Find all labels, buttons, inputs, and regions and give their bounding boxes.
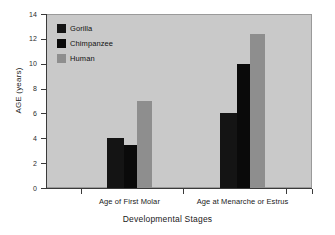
y-axis-tick xyxy=(41,64,46,65)
x-axis-tick xyxy=(286,189,287,194)
y-axis-tick-label: 2 xyxy=(33,160,37,167)
y-axis-line xyxy=(46,14,47,188)
bar-chart: 02468101214 Age of First MolarAge at Men… xyxy=(0,0,335,235)
legend-swatch-chimpanzee xyxy=(57,39,66,48)
y-axis-tick xyxy=(41,113,46,114)
legend-label: Human xyxy=(70,54,95,63)
bar-gorilla-1 xyxy=(220,113,237,188)
legend-item-gorilla[interactable]: Gorilla xyxy=(57,21,113,35)
bar-chimpanzee-0 xyxy=(124,145,137,188)
y-axis-tick xyxy=(41,89,46,90)
x-axis-tick-label: Age at Menarche or Estrus xyxy=(163,197,323,206)
x-axis-tick xyxy=(183,189,184,194)
y-axis-tick xyxy=(41,39,46,40)
y-axis-tick-label: 8 xyxy=(33,85,37,92)
y-axis-title: AGE (years) xyxy=(14,46,23,136)
bar-human-1 xyxy=(250,34,265,188)
x-axis-title: Developmental Stages xyxy=(0,214,335,224)
legend-label: Gorilla xyxy=(70,24,92,33)
legend-item-chimpanzee[interactable]: Chimpanzee xyxy=(57,36,113,50)
y-axis-tick xyxy=(41,188,46,189)
y-axis-tick xyxy=(41,138,46,139)
bar-gorilla-0 xyxy=(107,138,124,188)
x-axis-tick xyxy=(81,189,82,194)
legend-swatch-gorilla xyxy=(57,24,66,33)
bar-chimpanzee-1 xyxy=(237,64,250,188)
y-axis-tick-label: 12 xyxy=(29,35,37,42)
y-axis-tick xyxy=(41,163,46,164)
bar-human-0 xyxy=(137,101,152,188)
x-axis-line xyxy=(46,188,312,189)
legend-item-human[interactable]: Human xyxy=(57,51,113,65)
legend-swatch-human xyxy=(57,54,66,63)
y-axis-tick-label: 4 xyxy=(33,135,37,142)
x-axis-tick xyxy=(312,189,313,194)
y-axis-tick-label: 10 xyxy=(29,60,37,67)
y-axis-tick-label: 0 xyxy=(33,185,37,192)
legend-label: Chimpanzee xyxy=(70,39,113,48)
y-axis-tick-label: 6 xyxy=(33,110,37,117)
y-axis-tick xyxy=(41,14,46,15)
y-axis-tick-label: 14 xyxy=(29,11,37,18)
legend: GorillaChimpanzeeHuman xyxy=(57,21,113,66)
